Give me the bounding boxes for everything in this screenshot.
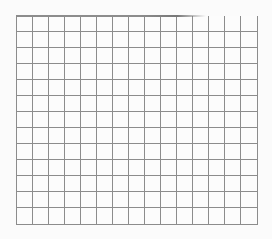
graph-paper-sheet [0, 0, 272, 239]
grid [16, 16, 258, 225]
grid-lines [17, 16, 257, 224]
grid-top-edge [16, 15, 206, 17]
